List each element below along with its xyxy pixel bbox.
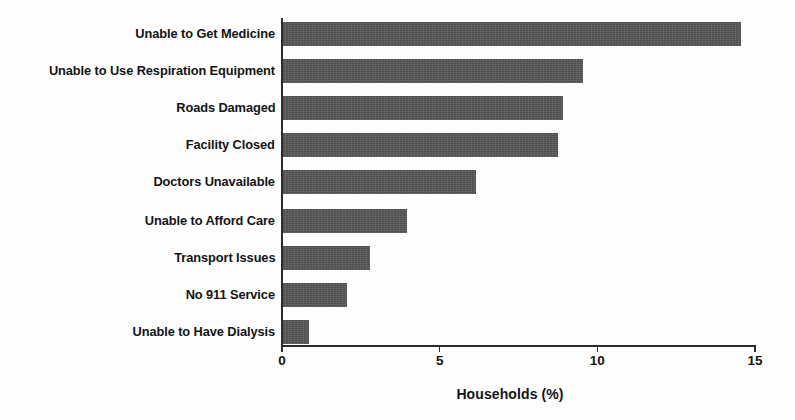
x-tick-label-0: 0: [278, 353, 286, 368]
bar-unable-to-have-dialysis: [282, 320, 309, 344]
plot-area: [282, 0, 795, 420]
category-label-doctors-unavailable: Doctors Unavailable: [153, 170, 275, 194]
category-label-unable-to-use-respiration-equipment: Unable to Use Respiration Equipment: [49, 59, 275, 83]
bar-facility-closed: [282, 133, 558, 157]
bar-no-911-service: [282, 283, 347, 307]
bar-chart: Unable to Get Medicine Unable to Use Res…: [0, 0, 795, 420]
x-tick-label-15: 15: [747, 353, 762, 368]
x-axis-title-text: Households (%): [456, 386, 563, 402]
x-tick-label-10: 10: [590, 353, 605, 368]
category-label-unable-to-afford-care: Unable to Afford Care: [145, 209, 275, 233]
category-label-unable-to-get-medicine: Unable to Get Medicine: [135, 22, 275, 46]
category-label-transport-issues: Transport Issues: [174, 246, 275, 270]
bar-unable-to-use-respiration-equipment: [282, 59, 583, 83]
x-tick-mark-10: [597, 346, 599, 352]
category-label-no-911-service: No 911 Service: [186, 283, 275, 307]
x-tick-mark-15: [754, 346, 756, 352]
x-tick-mark-5: [439, 346, 441, 352]
y-axis-line: [281, 18, 283, 346]
category-label-unable-to-have-dialysis: Unable to Have Dialysis: [132, 320, 275, 344]
category-label-facility-closed: Facility Closed: [186, 133, 275, 157]
x-tick-label-5: 5: [436, 353, 444, 368]
bar-transport-issues: [282, 246, 370, 270]
bar-unable-to-get-medicine: [282, 22, 741, 46]
category-label-roads-damaged: Roads Damaged: [176, 96, 275, 120]
bar-roads-damaged: [282, 96, 563, 120]
x-axis-line: [281, 345, 756, 347]
bar-unable-to-afford-care: [282, 209, 407, 233]
bar-doctors-unavailable: [282, 170, 476, 194]
x-axis-title: Households (%): [0, 386, 795, 402]
x-tick-mark-0: [281, 346, 283, 352]
